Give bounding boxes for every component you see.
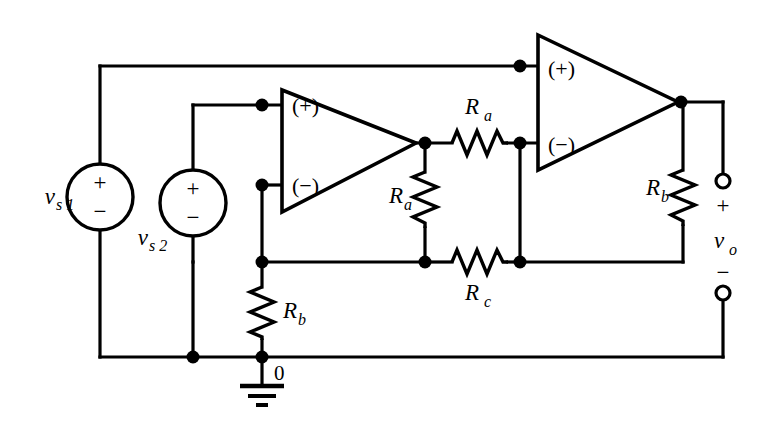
rb-right-zigzag: [671, 170, 695, 226]
resistor-rb-left[interactable]: R b: [250, 287, 306, 340]
output-name-label: v: [714, 228, 725, 253]
opamp2-minus-port-label: (−): [548, 132, 575, 157]
rb-left-subscript-label: b: [298, 311, 306, 328]
opamp2-plus-port-label: (+): [548, 56, 575, 81]
rc-subscript-label: c: [484, 293, 491, 310]
resistor-rb-right[interactable]: R b: [645, 170, 695, 226]
junction-dot-bottom-rail-ground: [256, 351, 269, 364]
junction-dot-middle-rail-rc-right: [514, 256, 527, 269]
junction-dot-middle-rail-ra: [419, 256, 432, 269]
ra-top-name-label: R: [464, 94, 479, 119]
vs1-plus-sign: +: [94, 170, 107, 195]
rb-right-subscript-label: b: [661, 188, 669, 205]
ra-vertical-zigzag: [413, 172, 437, 228]
junction-dot-opamp1-output: [419, 137, 432, 150]
vs2-plus-sign: +: [187, 176, 200, 201]
junction-dot-opamp2-plus-input: [514, 60, 527, 73]
vs1-name-label: v: [45, 184, 56, 209]
output-plus-sign: +: [717, 193, 730, 218]
rc-zigzag: [452, 250, 508, 274]
ra-top-subscript-label: a: [484, 107, 492, 124]
junction-dot-middle-rail-left: [256, 256, 269, 269]
output-terminal-negative[interactable]: [716, 286, 730, 300]
resistor-ra-top[interactable]: R a: [452, 94, 508, 155]
junction-dot-bottom-rail-vs2: [187, 351, 200, 364]
rb-left-name-label: R: [282, 298, 297, 323]
voltage-source-vs2[interactable]: + − v s 2: [138, 170, 226, 254]
vs1-minus-sign: −: [94, 199, 107, 224]
junction-dot-opamp2-minus-input: [514, 137, 527, 150]
ground-label: 0: [274, 361, 285, 385]
resistor-rc[interactable]: R c: [452, 250, 508, 310]
opamp2[interactable]: (+) (−): [538, 35, 678, 170]
ra-vertical-subscript-label: a: [404, 196, 412, 213]
rc-name-label: R: [464, 280, 479, 305]
junction-dot-opamp1-minus-input: [256, 179, 269, 192]
rb-left-zigzag: [250, 287, 274, 340]
ra-vertical-name-label: R: [388, 183, 403, 208]
vs2-minus-sign: −: [187, 205, 200, 230]
junction-dot-opamp2-output: [675, 96, 688, 109]
output-port[interactable]: + v o −: [714, 174, 737, 300]
opamp1-plus-port-label: (+): [292, 93, 319, 118]
vs2-subscript-label: s 2: [149, 237, 167, 254]
output-minus-sign: −: [717, 260, 730, 285]
junction-dot-opamp1-plus-input: [256, 99, 269, 112]
rb-right-name-label: R: [645, 175, 660, 200]
vs1-subscript-label: s 1: [56, 196, 74, 213]
circuit-diagram: (+) (−) (+) (−) + − v s 1 + − v s 2 R a …: [0, 0, 761, 431]
output-terminal-positive[interactable]: [716, 174, 730, 188]
resistor-ra-vertical[interactable]: R a: [388, 172, 437, 228]
output-subscript-label: o: [729, 241, 737, 258]
opamp1-minus-port-label: (−): [292, 173, 319, 198]
vs2-name-label: v: [138, 225, 149, 250]
voltage-source-vs1[interactable]: + − v s 1: [45, 164, 133, 230]
ground-symbol: 0: [240, 357, 285, 405]
ra-top-zigzag: [452, 131, 508, 155]
